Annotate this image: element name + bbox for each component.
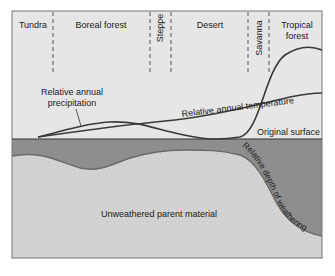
climate-zone-area <box>12 11 322 139</box>
precipitation-label-line2: precipitation <box>48 98 97 108</box>
precipitation-label-line1: Relative annual <box>41 87 103 97</box>
biome-label-savanna: Savanna <box>254 20 264 56</box>
original-surface-label: Original surface <box>257 127 320 137</box>
biome-label-desert: Desert <box>197 20 224 30</box>
weathering-diagram: Tundra Boreal forest Steppe Desert Savan… <box>0 0 335 276</box>
biome-label-tropical-forest-line2: forest <box>286 31 309 41</box>
biome-label-tropical-forest-line1: Tropical <box>281 20 313 30</box>
biome-label-steppe: Steppe <box>155 14 165 43</box>
parent-material-label: Unweathered parent material <box>101 209 217 219</box>
biome-label-boreal-forest: Boreal forest <box>75 20 127 30</box>
biome-label-tundra: Tundra <box>19 20 47 30</box>
